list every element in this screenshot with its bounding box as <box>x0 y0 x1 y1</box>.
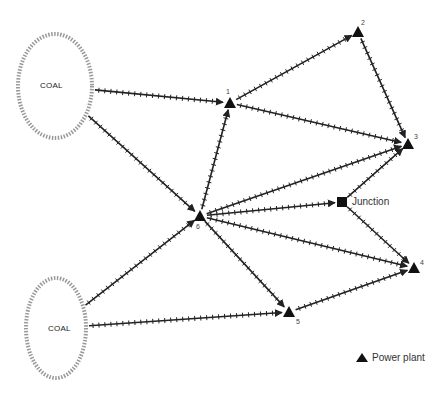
edge-tick <box>345 127 346 132</box>
edge-tick <box>246 104 247 109</box>
edge-tick <box>338 247 339 252</box>
edge-tick <box>275 111 276 116</box>
edge-1-to-2 <box>236 35 352 99</box>
edge-tick <box>293 115 294 120</box>
power-plant-1-triangle-icon <box>224 97 236 108</box>
node-label-5: 5 <box>296 318 300 325</box>
legend <box>356 353 368 362</box>
edge-tick <box>207 182 212 183</box>
edge-tick <box>222 219 223 224</box>
edge-tick <box>380 135 381 140</box>
edge-tick <box>351 129 352 134</box>
edge-tick <box>286 235 287 240</box>
edge-tick <box>310 119 311 124</box>
edge-tick <box>333 246 334 251</box>
edge-6-to-4 <box>207 218 407 267</box>
edge-tick <box>292 236 293 241</box>
edge-tick <box>298 237 299 242</box>
edge-tick <box>392 138 393 143</box>
edge-tick <box>316 121 317 126</box>
edge-tick <box>245 225 246 230</box>
edge-tick <box>240 103 241 108</box>
edge-tick <box>375 134 376 139</box>
edge-coal2-to-5 <box>89 312 282 325</box>
edge-tick <box>309 240 310 245</box>
edge-tick <box>363 131 364 136</box>
edge-tick <box>386 137 387 142</box>
node-label-4: 4 <box>420 259 424 266</box>
edge-tick <box>216 147 221 148</box>
edge-tick <box>379 257 380 262</box>
edge-tick <box>210 216 211 221</box>
edge-tick <box>350 250 351 255</box>
triangle-icon <box>356 353 368 362</box>
edge-tick <box>219 135 224 136</box>
edge-coal1-to-6 <box>88 116 194 211</box>
edge-tick <box>233 222 234 227</box>
coal-source-label-top: COAL <box>40 81 63 90</box>
legend-power-plant-label: Power plant <box>372 352 425 363</box>
power-plant-2-triangle-icon <box>352 26 364 37</box>
edge-tick <box>263 229 264 234</box>
edge-tick <box>216 218 217 223</box>
edge-tick <box>280 233 281 238</box>
edge-tick <box>251 226 252 231</box>
edge-tick <box>321 243 322 248</box>
node-label-3: 3 <box>414 133 418 140</box>
edge-tick <box>252 106 253 111</box>
edge-tick <box>356 252 357 257</box>
power-plant-4-triangle-icon <box>408 262 420 273</box>
edge-tick <box>213 158 218 159</box>
edge-tick <box>304 118 305 123</box>
edge-tick <box>315 242 316 247</box>
edge-5-to-4 <box>296 270 408 309</box>
edge-tick <box>200 205 205 206</box>
nodes <box>194 26 420 317</box>
edge-tick <box>340 126 341 131</box>
edge-tick <box>328 123 329 128</box>
edge-tick <box>368 254 369 259</box>
edge-tick <box>217 141 222 142</box>
edge-tick <box>202 199 207 200</box>
power-plant-5-triangle-icon <box>283 306 295 317</box>
edge-tick <box>210 170 215 171</box>
edge-tick <box>224 118 229 119</box>
node-label-6: 6 <box>196 223 200 230</box>
coal-source-label-bottom: COAL <box>48 324 71 333</box>
edge-tick <box>211 164 216 165</box>
junction-square-icon <box>337 197 347 207</box>
edge-tick <box>334 125 335 130</box>
edge-tick <box>220 129 225 130</box>
edge-tick <box>369 133 370 138</box>
edge-tick <box>322 122 323 127</box>
coal-transport-network-diagram: COAL COAL 1 2 3 4 5 6 Junction Power pla… <box>0 0 443 393</box>
edge-tick <box>257 228 258 233</box>
edge-tick <box>303 239 304 244</box>
edges <box>86 35 409 328</box>
edge-tick <box>287 114 288 119</box>
edge-tick <box>268 230 269 235</box>
edge-tick <box>264 108 265 113</box>
edge-tick <box>208 176 213 177</box>
edge-tick <box>239 223 240 228</box>
edge-tick <box>228 220 229 225</box>
edge-tick <box>258 107 259 112</box>
edge-tick <box>362 253 363 258</box>
edge-tick <box>391 260 392 265</box>
edge-tick <box>281 112 282 117</box>
power-plant-3-triangle-icon <box>402 138 414 149</box>
edge-1-to-3 <box>237 105 401 143</box>
edge-tick <box>203 193 208 194</box>
edge-tick <box>344 249 345 254</box>
edge-tick <box>327 245 328 250</box>
edge-tick <box>274 232 275 237</box>
node-label-1: 1 <box>226 88 230 95</box>
edge-tick <box>397 262 398 267</box>
edge-tick <box>205 187 210 188</box>
edge-6-to-1 <box>202 110 228 209</box>
edge-tick <box>214 153 219 154</box>
power-plant-6-triangle-icon <box>194 210 206 221</box>
junction-label: Junction <box>352 196 389 207</box>
edge-tick <box>299 117 300 122</box>
edge-tick <box>222 124 227 125</box>
